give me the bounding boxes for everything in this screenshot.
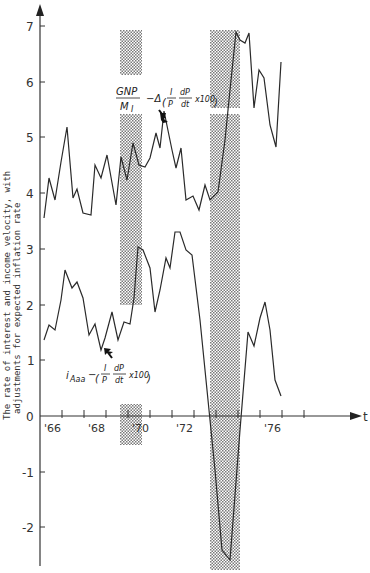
lower-frac2-num: I — [104, 364, 107, 373]
upper-formula-num: GNP — [116, 86, 138, 97]
y-tick-4: 4 — [26, 187, 34, 201]
chart: 7 6 5 4 3 2 1 0 -1 -2 '66 '68 '70 '72 '7… — [0, 0, 370, 573]
x-tick-72: '72 — [176, 422, 193, 435]
upper-formula-den: M — [120, 101, 129, 112]
y-tick-1: 1 — [27, 354, 35, 368]
series-velocity-line — [44, 32, 281, 218]
lower-paren-open: ( — [95, 373, 100, 384]
y-ticks — [40, 26, 45, 527]
y-axis-arrow-icon — [36, 4, 44, 16]
y-tick-2: 2 — [26, 299, 34, 313]
y-tick-0: 0 — [26, 410, 34, 424]
y-axis-title: The rate of interest and income velocity… — [2, 171, 22, 420]
x-tick-68: '68 — [88, 422, 105, 435]
y-title-line-2: adjustments for expected inflation rate — [12, 203, 22, 414]
shade-band-2-main — [210, 114, 240, 570]
shaded-periods — [120, 30, 240, 570]
lower-formula-sub: Aaa — [69, 375, 85, 384]
upper-frac3-num: dP — [180, 88, 190, 97]
x-tick-labels: '66 '68 '70 '72 '76 t — [44, 410, 368, 435]
y-tick-6: 6 — [26, 76, 34, 90]
upper-formula-tail: x100 — [194, 95, 215, 104]
upper-formula-delta: −Δ — [146, 93, 161, 104]
y-tick-5: 5 — [26, 131, 34, 145]
upper-frac2-den: P — [168, 100, 173, 109]
x-tick-66: '66 — [44, 422, 61, 435]
lower-frac2-den: P — [102, 376, 107, 385]
y-tick-labels: 7 6 5 4 3 2 1 0 -1 -2 — [22, 20, 35, 535]
x-tick-70: '70 — [132, 422, 149, 435]
x-ticks — [62, 410, 304, 418]
shade-band-1-top — [120, 30, 142, 75]
x-axis-arrow-icon — [350, 412, 362, 420]
y-tick-neg1: -1 — [22, 466, 34, 480]
y-tick-neg2: -2 — [22, 521, 34, 535]
upper-paren-close: ) — [213, 97, 218, 108]
y-title-line-1: The rate of interest and income velocity… — [2, 171, 12, 420]
upper-frac2-num: I — [170, 88, 173, 97]
x-axis-title: t — [363, 410, 368, 424]
upper-formula-den-sub: I — [131, 105, 134, 114]
lower-paren-close: ) — [146, 373, 151, 384]
lower-series-annotation: i Aaa − ( I P dP dt x100 ) — [66, 348, 151, 385]
lower-formula-tail: x100 — [128, 371, 149, 380]
upper-frac3-den: dt — [181, 100, 190, 109]
x-tick-76: '76 — [264, 422, 281, 435]
upper-paren-open: ( — [162, 97, 167, 108]
series-aaa-rate-line — [44, 232, 281, 560]
lower-frac3-num: dP — [114, 364, 124, 373]
lower-frac3-den: dt — [115, 376, 124, 385]
axes — [36, 4, 362, 566]
lower-formula-base: i — [66, 370, 69, 381]
y-tick-3: 3 — [26, 243, 34, 257]
shade-band-1-mid — [120, 114, 142, 305]
y-tick-7: 7 — [26, 20, 34, 34]
